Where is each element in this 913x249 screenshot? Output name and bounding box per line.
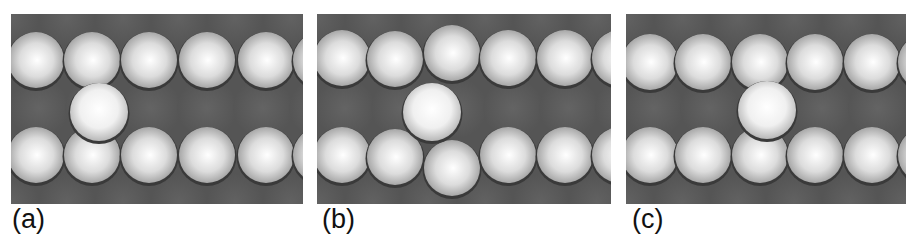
surface-atom — [121, 32, 177, 88]
surface-atom — [64, 32, 120, 88]
surface-atom — [179, 32, 235, 88]
surface-atom — [480, 127, 536, 183]
panel-b-label: (b) — [322, 206, 355, 233]
adatom — [738, 81, 796, 139]
surface-atom — [844, 127, 900, 183]
surface-atom — [675, 127, 731, 183]
panel-b-atoms — [317, 14, 611, 204]
panel-b — [317, 14, 611, 204]
adatom — [403, 83, 461, 141]
panel-a-atoms — [11, 14, 303, 204]
surface-atom — [675, 34, 731, 90]
surface-atom — [238, 32, 294, 88]
surface-atom — [179, 127, 235, 183]
adatom — [70, 83, 128, 141]
surface-atom — [424, 140, 480, 196]
surface-atom — [732, 34, 788, 90]
surface-atom — [238, 127, 294, 183]
panel-a — [11, 14, 303, 204]
surface-atom — [537, 127, 593, 183]
surface-atom — [844, 34, 900, 90]
surface-atom — [121, 127, 177, 183]
surface-atom — [367, 31, 423, 87]
panel-c — [626, 14, 906, 204]
surface-atom — [480, 30, 536, 86]
surface-atom — [787, 34, 843, 90]
panel-c-label: (c) — [632, 206, 663, 233]
surface-atom — [537, 30, 593, 86]
surface-atom — [424, 25, 480, 81]
panel-c-atoms — [626, 14, 906, 204]
panel-a-label: (a) — [12, 206, 45, 233]
surface-atom — [787, 127, 843, 183]
